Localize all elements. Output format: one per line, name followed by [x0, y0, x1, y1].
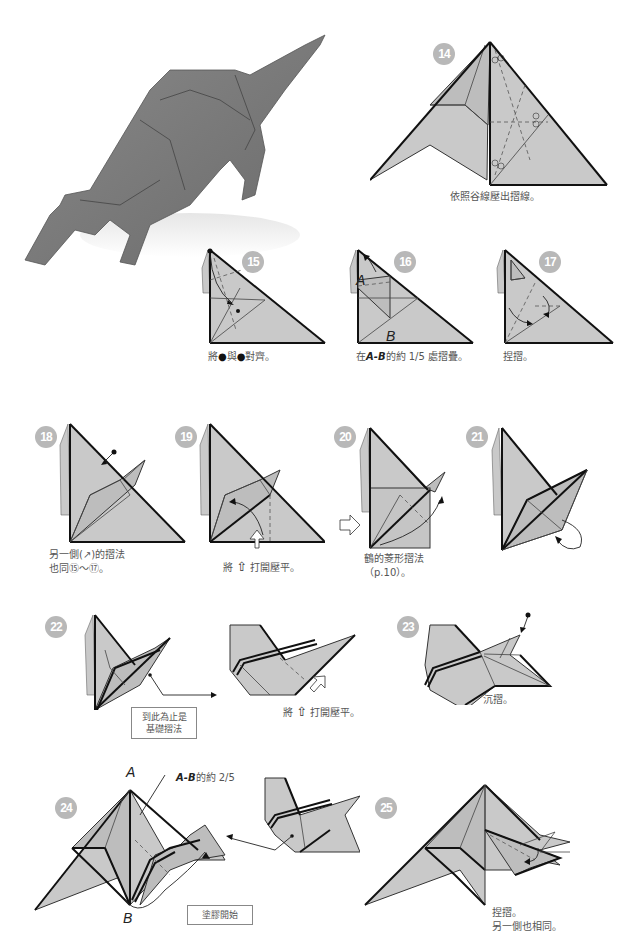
step-20: 20 鶴的菱形摺法 （p.10）。	[330, 420, 460, 580]
hollow-up-arrow-icon: ⇧	[296, 704, 307, 719]
step-22-diagram	[45, 610, 375, 710]
step-18-diagram	[35, 420, 195, 545]
step-14: 14 依照谷線壓出摺線。	[370, 40, 619, 215]
glue-start-note: 塗膠開始	[187, 905, 253, 925]
dot-marker: ●	[218, 351, 227, 362]
step-15-caption: 將●與●對齊。	[208, 350, 275, 364]
step-15-diagram	[200, 248, 335, 348]
step-21: 21	[462, 420, 619, 560]
step-23: 23 沉摺。	[385, 610, 619, 720]
step-14-diagram	[370, 40, 619, 190]
step-25-diagram	[360, 780, 619, 910]
step-21-diagram	[462, 420, 619, 560]
step-16: 16 A B 在A-B的約 1/5 處摺疊。	[348, 248, 488, 368]
step-19: 19 將 ⇧ 打開壓平。	[175, 420, 325, 585]
step-16-caption: 在A-B的約 1/5 處摺疊。	[356, 350, 468, 364]
point-label-b: B	[123, 910, 132, 926]
step-18-caption: 另一側(↗)的摺法 也同⑮～⑰。	[49, 548, 125, 576]
step-20-diagram	[330, 420, 460, 550]
origami-photo	[20, 30, 330, 280]
basic-fold-note: 到此為止是 基礎摺法	[131, 707, 197, 739]
step-18: 18 另一側(↗)的摺法 也同⑮～⑰。	[35, 420, 195, 580]
step-22: 22 到此為止是 基礎摺法 將 ⇧ 打開壓平。	[45, 610, 375, 735]
step-14-caption: 依照谷線壓出摺線。	[450, 190, 540, 204]
step-23-diagram	[385, 610, 619, 705]
point-label-b: B	[386, 328, 395, 344]
step-24: 24 A B A-B的約 2/5 塗膠開始	[30, 760, 360, 937]
step-24-annotation: A-B的約 2/5	[176, 771, 235, 785]
step-19-caption: 將 ⇧ 打開壓平。	[223, 560, 300, 575]
point-label-a: A	[356, 272, 365, 288]
step-15: 15 將●與●對齊。	[200, 248, 335, 368]
step-19-diagram	[175, 420, 325, 555]
step-17-diagram	[495, 248, 619, 348]
hollow-up-arrow-icon: ⇧	[236, 559, 247, 574]
step-20-caption: 鶴的菱形摺法 （p.10）。	[364, 552, 424, 580]
step-16-diagram	[348, 248, 488, 348]
point-label-a: A	[126, 764, 135, 780]
step-17-caption: 捏摺。	[503, 350, 533, 364]
step-17: 17 捏摺。	[495, 248, 619, 368]
step-23-caption: 沉摺。	[483, 693, 513, 707]
step-25: 25 捏摺。 另一側也相同。	[360, 780, 619, 937]
rhino-photo-illustration	[20, 30, 330, 280]
step-25-caption: 捏摺。 另一側也相同。	[492, 906, 562, 934]
step-22-detail-caption: 將 ⇧ 打開壓平。	[283, 705, 360, 720]
